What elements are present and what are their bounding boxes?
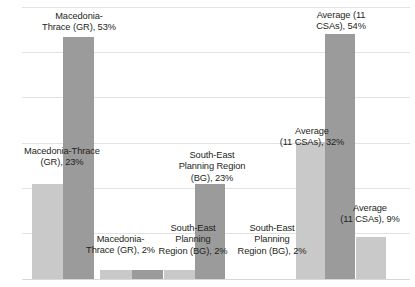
data-label-average-11-csas-32: Average (11 CSAs), 32% [262, 126, 362, 149]
bar-macedonia-thrace-gr-2[interactable] [100, 270, 132, 279]
data-label-south-east-planning-region-bg-2-b: South-East Planning Region (BG), 2% [222, 223, 322, 257]
bar-south-east-planning-region-bg-2-b[interactable] [164, 270, 195, 279]
bar-average-11-csas-54[interactable] [325, 34, 355, 279]
data-label-macedonia-thrace-gr-23: Macedonia-Thrace (GR), 23% [2, 146, 122, 169]
axis-baseline [22, 279, 410, 280]
bar-chart: Macedonia-Thrace (GR), 23% Macedonia- Th… [0, 0, 415, 287]
plot-area: Macedonia-Thrace (GR), 23% Macedonia- Th… [0, 0, 415, 287]
data-label-south-east-planning-region-bg-23: South-East Planning Region (BG), 23% [157, 150, 267, 184]
bar-macedonia-thrace-gr-23[interactable] [32, 184, 63, 279]
gridline-60 [22, 7, 410, 8]
bar-south-east-planning-region-bg-2-a[interactable] [132, 270, 163, 279]
data-label-average-11-csas-9: Average (11 CSAs), 9% [326, 203, 414, 226]
bar-average-11-csas-32[interactable] [296, 142, 325, 279]
data-label-macedonia-thrace-gr-53: Macedonia- Thrace (GR), 53% [18, 11, 140, 34]
data-label-average-11-csas-54: Average (11 CSAs), 54% [291, 10, 391, 33]
bar-average-11-csas-9[interactable] [356, 237, 386, 279]
